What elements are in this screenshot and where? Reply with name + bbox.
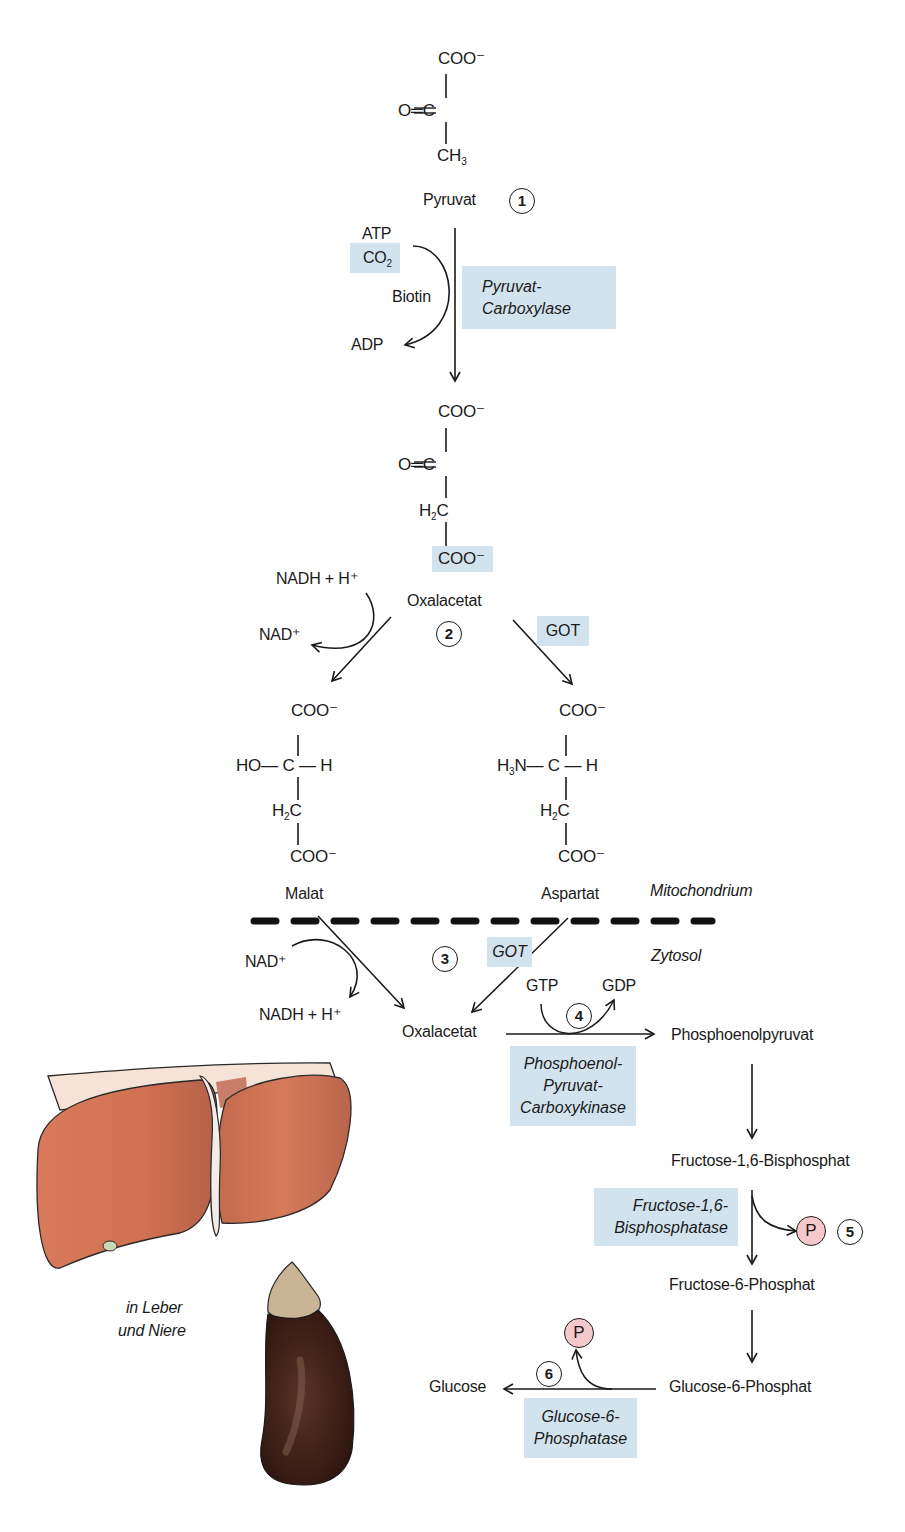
liver-icon bbox=[37, 1063, 351, 1268]
caption-line-1: in Leber bbox=[126, 1298, 182, 1318]
kidney-icon bbox=[261, 1262, 354, 1485]
caption-line-2: und Niere bbox=[118, 1321, 186, 1341]
